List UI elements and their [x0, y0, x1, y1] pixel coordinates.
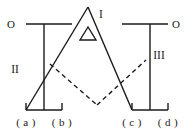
peak-left-edge [26, 7, 88, 110]
peak-right-edge [88, 7, 132, 110]
region-label-one: I [99, 8, 103, 20]
axis-label-a: ( a ) [16, 116, 36, 129]
origin-label-left: O [7, 18, 15, 30]
axis-label-d: ( d ) [158, 116, 178, 129]
delta-triangle-outline [80, 27, 96, 40]
origin-label-right: O [172, 18, 180, 30]
axis-label-b: ( b ) [52, 116, 72, 129]
region-label-two: II [11, 63, 19, 75]
dashed-valley-left-edge [50, 64, 97, 105]
figure-panel: O O I II III ( a ) ( b ) ( c ) ( d ) [0, 0, 194, 129]
region-label-three: III [153, 49, 165, 61]
axis-label-c: ( c ) [122, 116, 142, 129]
diagram-canvas: O O I II III ( a ) ( b ) ( c ) ( d ) [0, 0, 194, 129]
dashed-valley-right-edge [97, 60, 146, 105]
